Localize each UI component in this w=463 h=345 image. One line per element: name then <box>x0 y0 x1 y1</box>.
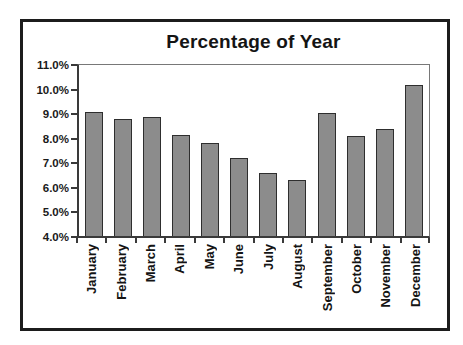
x-axis-label-text: November <box>379 244 392 308</box>
x-axis-tick <box>135 238 137 243</box>
y-axis-tick-label: 10.0% <box>21 82 69 98</box>
bar-june <box>230 158 248 236</box>
x-axis-tick <box>428 238 430 243</box>
bar-october <box>347 136 365 236</box>
y-axis-tick-label: 9.0% <box>21 106 69 122</box>
x-axis-label-may: May <box>195 244 224 326</box>
scanned-chart-page: Percentage of Year 11.0%10.0%9.0%8.0%7.0… <box>0 0 463 345</box>
x-axis-label-text: December <box>409 244 422 307</box>
x-axis-tick <box>164 238 166 243</box>
x-axis-label-october: October <box>342 244 371 326</box>
x-axis-label-december: December <box>401 244 430 326</box>
x-axis-tick <box>282 238 284 243</box>
x-axis-label-text: January <box>85 244 98 294</box>
bar-july <box>259 173 277 236</box>
x-axis-label-text: May <box>203 244 216 269</box>
x-axis-tick <box>105 238 107 243</box>
y-axis-tick <box>71 162 77 164</box>
bar-november <box>376 129 394 236</box>
x-axis-label-june: June <box>224 244 253 326</box>
y-axis-tick <box>71 138 77 140</box>
x-axis-label-april: April <box>165 244 194 326</box>
bar-january <box>85 112 103 236</box>
bar-april <box>172 135 190 236</box>
bar-december <box>405 85 423 236</box>
x-axis-tick <box>400 238 402 243</box>
bar-august <box>288 180 306 236</box>
y-axis-tick <box>71 113 77 115</box>
x-axis-label-september: September <box>312 244 341 326</box>
x-axis-label-march: March <box>136 244 165 326</box>
x-axis-label-text: September <box>321 244 334 311</box>
y-axis-tick-label: 8.0% <box>21 131 69 147</box>
x-axis-label-text: April <box>173 244 186 274</box>
plot-area <box>77 64 430 238</box>
x-axis-tick <box>194 238 196 243</box>
x-axis-label-august: August <box>283 244 312 326</box>
y-axis-tick <box>71 64 77 66</box>
y-axis-tick-label: 11.0% <box>21 57 69 73</box>
y-axis-tick <box>71 89 77 91</box>
y-axis-tick <box>71 211 77 213</box>
x-axis-tick <box>76 238 78 243</box>
x-axis-tick <box>253 238 255 243</box>
bar-march <box>143 117 161 236</box>
y-axis-tick <box>71 187 77 189</box>
x-axis-label-july: July <box>254 244 283 326</box>
y-axis-tick-label: 7.0% <box>21 155 69 171</box>
x-axis-label-text: August <box>291 244 304 289</box>
x-axis-tick <box>311 238 313 243</box>
x-axis-label-february: February <box>106 244 135 326</box>
x-axis-label-text: March <box>144 244 157 282</box>
x-axis-label-text: October <box>350 244 363 294</box>
x-axis-tick <box>341 238 343 243</box>
x-axis-label-november: November <box>371 244 400 326</box>
y-axis-tick-label: 4.0% <box>21 229 69 245</box>
bar-may <box>201 143 219 236</box>
x-axis-label-january: January <box>77 244 106 326</box>
chart-title: Percentage of Year <box>77 31 430 53</box>
x-axis-label-text: June <box>232 244 245 274</box>
y-axis-tick-label: 6.0% <box>21 180 69 196</box>
x-axis-label-text: July <box>262 244 275 270</box>
x-axis-tick <box>223 238 225 243</box>
y-axis-tick-label: 5.0% <box>21 204 69 220</box>
x-axis-label-text: February <box>115 244 128 300</box>
x-axis-tick <box>370 238 372 243</box>
bar-september <box>318 113 336 236</box>
bar-february <box>114 119 132 236</box>
